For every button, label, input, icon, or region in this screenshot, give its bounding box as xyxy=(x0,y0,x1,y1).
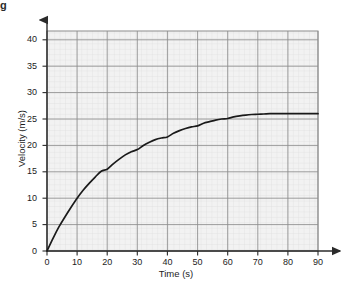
x-axis-title: Time (s) xyxy=(0,268,352,279)
x-tick-label-0: 0 xyxy=(37,258,57,267)
x-tick-label-10: 10 xyxy=(67,258,87,267)
x-tick-label-30: 30 xyxy=(127,258,147,267)
x-tick-label-80: 80 xyxy=(278,258,298,267)
y-tick-label-35: 35 xyxy=(19,62,37,71)
x-tick-label-40: 40 xyxy=(157,258,177,267)
x-tick-label-90: 90 xyxy=(308,258,328,267)
y-tick-label-40: 40 xyxy=(19,35,37,44)
y-tick-label-10: 10 xyxy=(19,194,37,203)
plot-area-background xyxy=(47,31,318,251)
x-tick-label-50: 50 xyxy=(188,258,208,267)
x-tick-label-20: 20 xyxy=(97,258,117,267)
x-tick-label-60: 60 xyxy=(218,258,238,267)
y-axis-title: Velocity (m/s) xyxy=(16,91,27,187)
x-tick-label-70: 70 xyxy=(248,258,268,267)
velocity-time-chart: g 0 5 10 15 20 25 30 35 40 0 10 20 30 40… xyxy=(0,0,352,288)
corner-mark-glyph: g xyxy=(0,0,7,11)
chart-canvas xyxy=(0,0,352,288)
y-tick-label-5: 5 xyxy=(19,220,37,229)
y-tick-label-0: 0 xyxy=(19,247,37,256)
